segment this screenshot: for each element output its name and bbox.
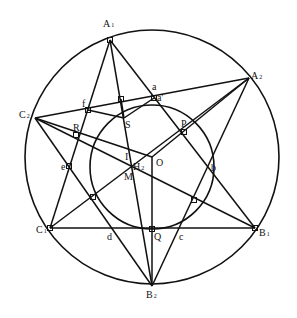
label-B2: B2: [146, 289, 157, 300]
label-b: b: [211, 162, 216, 173]
label-a_prime: a': [157, 92, 163, 103]
geometry-diagram: A1A2C2C1B1B2aa'fSRPIH2OMebdQc: [0, 0, 297, 318]
segment-C2-O: [35, 118, 152, 157]
label-P: P: [181, 118, 187, 129]
label-c: c: [179, 231, 184, 242]
segment-A1-C1: [50, 40, 110, 228]
label-S: S: [125, 119, 131, 130]
label-A1: A1: [103, 18, 114, 29]
segment-C2-B2: [35, 118, 152, 286]
segment-A2-B2: [152, 78, 249, 286]
label-a: a: [152, 81, 157, 92]
label-O: O: [156, 157, 163, 168]
label-B1: B1: [259, 227, 270, 238]
point-labels: A1A2C2C1B1B2aa'fSRPIH2OMebdQc: [19, 18, 270, 300]
label-e: e: [61, 161, 66, 172]
label-H2: H2: [133, 161, 144, 172]
label-d: d: [107, 231, 112, 242]
label-A2: A2: [251, 70, 262, 81]
segment-A1-B2: [110, 40, 152, 286]
label-M: M: [124, 171, 133, 182]
segment-A2-O: [152, 78, 249, 157]
label-I: I: [125, 151, 128, 162]
label-C2: C2: [19, 109, 30, 120]
segment-A2-C2: [35, 78, 249, 118]
right-angle-mark-R: [74, 133, 79, 138]
label-R: R: [73, 122, 80, 133]
label-Q: Q: [154, 231, 162, 242]
